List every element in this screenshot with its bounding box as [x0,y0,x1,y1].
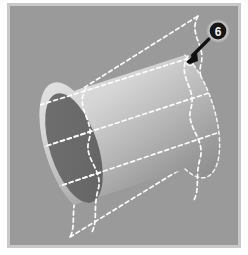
callout-badge: 6 [206,19,230,43]
badge-label: 6 [215,25,222,39]
figure-root: 6 [0,0,248,255]
cylinder-figure-svg: 6 [0,0,248,255]
